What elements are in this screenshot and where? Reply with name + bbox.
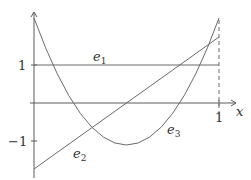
orthonormal-polynomials-plot: 1 −1 1 x e1 e2 e3 xyxy=(0,0,251,180)
x-axis-label: x xyxy=(236,104,244,119)
e2-label: e2 xyxy=(73,146,86,163)
e3-label: e3 xyxy=(167,122,181,139)
x-tick-label-1: 1 xyxy=(215,110,223,125)
y-tick-label-minus-1: −1 xyxy=(8,134,27,149)
e1-label: e1 xyxy=(93,49,106,66)
y-tick-label-1: 1 xyxy=(18,58,26,73)
curve-e3 xyxy=(34,18,219,145)
